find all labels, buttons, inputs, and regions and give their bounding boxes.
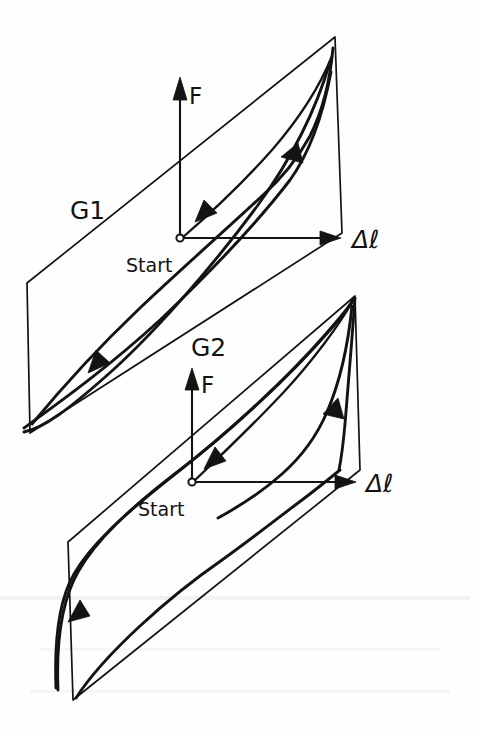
paper-smudge bbox=[40, 648, 440, 651]
paper-smudge bbox=[30, 690, 450, 693]
g1-curve-label: G1 bbox=[70, 196, 105, 225]
g2-origin-dot bbox=[188, 478, 195, 485]
g1-f-axis-arrow-icon bbox=[173, 77, 187, 100]
g1-dl-axis-arrow-icon bbox=[320, 231, 341, 245]
g1-dl-axis-label: Δℓ bbox=[350, 225, 379, 254]
g1-unloading-arrow-icon bbox=[281, 143, 303, 163]
g1-origin-dot bbox=[176, 234, 183, 241]
g2-inner-arrow-icon bbox=[204, 447, 226, 469]
g1-loading-arrow-icon bbox=[88, 350, 110, 373]
g1-start-label: Start bbox=[126, 254, 172, 276]
g2-curve-label: G2 bbox=[191, 333, 226, 362]
g2-f-axis-arrow-icon bbox=[185, 368, 199, 390]
g1-f-axis-label: F bbox=[189, 83, 202, 109]
panel-g2: G2 F Δℓ Start bbox=[56, 296, 394, 700]
g2-start-label: Start bbox=[138, 498, 184, 520]
g2-apex-descent bbox=[339, 298, 355, 470]
g2-dl-axis-arrow-icon bbox=[335, 475, 356, 489]
g2-return-to-origin bbox=[76, 470, 340, 698]
g2-dl-axis-label: Δℓ bbox=[364, 469, 393, 498]
g1-apex-descent bbox=[262, 48, 333, 196]
g1-loading-branch bbox=[24, 72, 331, 428]
g2-f-axis-label: F bbox=[201, 372, 214, 398]
figure-root: G1 F Δℓ Start bbox=[0, 0, 480, 732]
g1-inner-arrow-icon bbox=[195, 200, 217, 222]
hysteresis-diagram: G1 F Δℓ Start bbox=[0, 0, 480, 732]
g2-loading-arrow-icon bbox=[68, 600, 90, 622]
g1-return-to-origin bbox=[32, 196, 262, 424]
